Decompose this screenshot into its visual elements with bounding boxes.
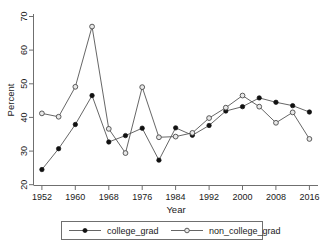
data-point-non_college_grad-1968 (106, 126, 111, 131)
y-tick-label-50: 50 (19, 79, 29, 89)
data-point-college_grad-1984 (173, 126, 177, 130)
data-point-college_grad-1964 (90, 93, 94, 97)
data-point-college_grad-2016 (307, 110, 311, 114)
x-tick-label-1960: 1960 (65, 192, 85, 202)
data-point-non_college_grad-1956 (56, 114, 61, 119)
data-point-college_grad-2012 (290, 103, 294, 107)
data-point-college_grad-1992 (207, 123, 211, 127)
x-tick-label-1984: 1984 (166, 192, 186, 202)
chart-legend: college_grad non_college_grad (62, 222, 281, 240)
data-point-non_college_grad-2016 (307, 137, 312, 142)
chart-figure: 70 60 50 40 30 20 Percent 1952 1960 1968… (0, 0, 324, 243)
data-point-college_grad-1972 (123, 133, 127, 137)
y-tick-label-40: 40 (19, 112, 29, 122)
data-point-college_grad-1976 (140, 126, 144, 130)
data-point-college_grad-1980 (157, 158, 161, 162)
data-point-non_college_grad-1984 (173, 134, 178, 139)
data-point-non_college_grad-1980 (157, 135, 162, 140)
data-point-college_grad-2000 (240, 104, 244, 108)
legend-marker-college-grad-icon (83, 228, 87, 232)
data-point-non_college_grad-1964 (90, 24, 95, 29)
data-point-non_college_grad-1996 (223, 105, 228, 110)
data-point-non_college_grad-1960 (73, 84, 78, 89)
data-point-college_grad-2008 (274, 100, 278, 104)
data-point-non_college_grad-2004 (257, 104, 262, 109)
data-point-college_grad-1968 (107, 140, 111, 144)
x-tick-label-2000: 2000 (232, 192, 252, 202)
x-tick-label-1992: 1992 (199, 192, 219, 202)
x-tick-label-2008: 2008 (266, 192, 286, 202)
data-point-non_college_grad-2008 (274, 120, 279, 125)
legend-marker-non-college-grad-icon (185, 228, 190, 233)
y-tick-label-30: 30 (19, 146, 29, 156)
data-point-non_college_grad-1992 (207, 116, 212, 121)
y-tick-label-60: 60 (19, 45, 29, 55)
x-tick-label-1952: 1952 (32, 192, 52, 202)
data-point-college_grad-1952 (40, 167, 44, 171)
line-chart: 70 60 50 40 30 20 Percent 1952 1960 1968… (0, 0, 324, 243)
data-point-college_grad-1960 (73, 122, 77, 126)
data-point-non_college_grad-1988 (190, 130, 195, 135)
legend-label-college-grad: college_grad (107, 226, 159, 236)
data-point-college_grad-1956 (56, 147, 60, 151)
legend-label-non-college-grad: non_college_grad (209, 226, 281, 236)
x-tick-labels: 1952 1960 1968 1976 1984 1992 2000 2008 … (32, 192, 320, 202)
x-tick-label-1968: 1968 (99, 192, 119, 202)
x-tick-label-1976: 1976 (132, 192, 152, 202)
y-tick-label-70: 70 (19, 11, 29, 21)
x-tick-label-2016: 2016 (299, 192, 319, 202)
y-axis-title: Percent (5, 83, 16, 116)
data-point-non_college_grad-1952 (40, 111, 45, 116)
data-point-non_college_grad-1976 (140, 85, 145, 90)
data-point-college_grad-2004 (257, 96, 261, 100)
data-point-non_college_grad-2000 (240, 93, 245, 98)
x-axis-title: Year (166, 204, 185, 215)
data-point-non_college_grad-2012 (290, 110, 295, 115)
data-point-non_college_grad-1972 (123, 151, 128, 156)
y-tick-label-20: 20 (19, 180, 29, 190)
